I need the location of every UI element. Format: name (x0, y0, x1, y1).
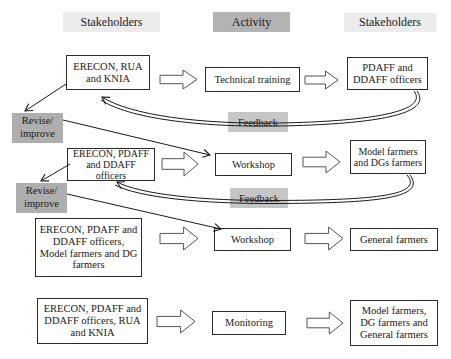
row2-left-flow-arrow-icon (162, 152, 198, 176)
row4-left-flow-arrow-icon (157, 310, 195, 333)
revise-improve-label-2: Revise/ improve (16, 183, 67, 213)
revise-improve-2-line1: Revise/ (26, 185, 58, 198)
row4-stakeholders-left-box: ERECON, PDAFF and DDAFF officers, RUA an… (37, 298, 148, 344)
row1-activity-box: Technical training (205, 67, 300, 92)
revise-improve-2-line2: improve (24, 198, 59, 211)
row4-activity-box: Monitoring (212, 311, 286, 335)
row4-right-flow-arrow-icon (307, 312, 343, 334)
feedback-label-1: Feedback (228, 112, 288, 132)
row1-stakeholders-left-box: ERECON, RUA and KNIA (66, 55, 150, 90)
flow-diagram: Stakeholders Activity Stakeholders ERECO… (0, 0, 451, 359)
row2-stakeholders-left-box: ERECON, PDAFF and DDAFF officers (67, 148, 155, 181)
row1-left-flow-arrow-icon (160, 70, 197, 89)
row3-stakeholders-right-box: General farmers (350, 228, 438, 251)
row3-right-flow-arrow-icon (305, 227, 343, 250)
revise-improve-label-1: Revise/ improve (12, 113, 63, 143)
revise-improve-1-line1: Revise/ (22, 115, 54, 128)
arrow-to-revise2 (41, 164, 70, 181)
header-activity: Activity (213, 12, 290, 32)
arrow-to-revise1 (25, 84, 66, 111)
row3-activity-box: Workshop (214, 228, 291, 251)
row4-stakeholders-right-box: Model farmers, DG farmers and General fa… (350, 300, 438, 346)
row1-right-flow-arrow-icon (305, 71, 338, 89)
row2-activity-box: Workshop (215, 153, 292, 176)
row3-left-flow-arrow-icon (160, 227, 198, 250)
header-stakeholders-right: Stakeholders (344, 13, 436, 32)
row3-stakeholders-left-box: ERECON, PDAFF and DDAFF officers, Model … (35, 218, 142, 277)
header-stakeholders-left: Stakeholders (63, 12, 160, 32)
row2-right-flow-arrow-icon (303, 151, 340, 173)
revise-improve-1-line2: improve (20, 128, 55, 141)
feedback-label-2: Feedback (230, 188, 288, 208)
row2-stakeholders-right-box: Model farmers and DGs farmers (350, 140, 426, 174)
row1-stakeholders-right-box: PDAFF and DDAFF officers (347, 57, 428, 90)
